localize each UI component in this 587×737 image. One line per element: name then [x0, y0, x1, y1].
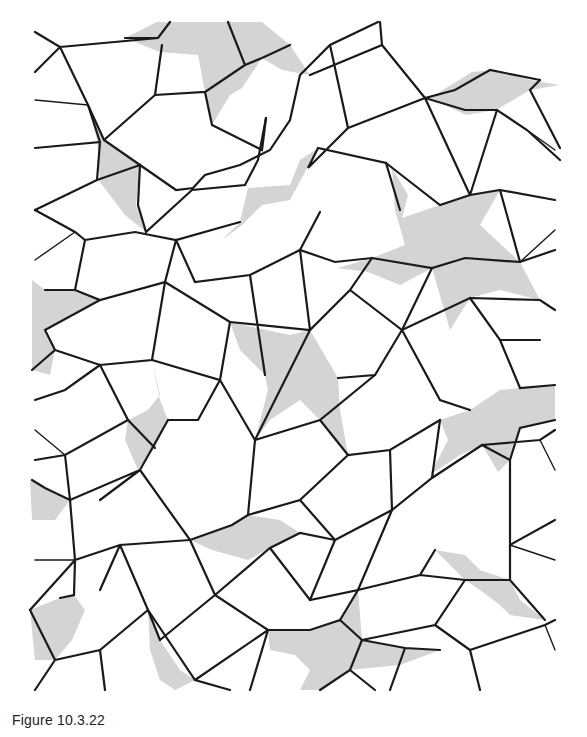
tiling-svg [0, 0, 587, 700]
tiling-figure [0, 0, 587, 700]
shaded-regions [30, 22, 560, 690]
figure-caption: Figure 10.3.22 [12, 712, 105, 728]
